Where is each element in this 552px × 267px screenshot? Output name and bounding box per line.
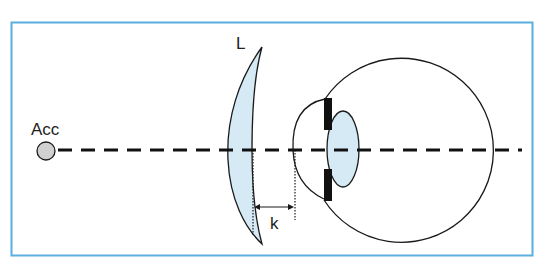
optics-diagram: Acc L k [0,0,552,267]
accommodation-point [37,142,55,160]
label-accommodation: Acc [31,120,60,139]
label-distance-k: k [270,214,279,233]
iris-lower [324,169,332,201]
iris-upper [324,98,332,130]
label-lens: L [236,34,245,53]
